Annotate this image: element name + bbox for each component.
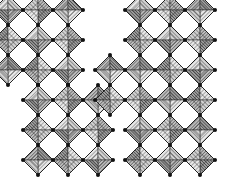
shared-corner-vertex — [51, 98, 55, 102]
octahedral-framework-figure: Corner-sharing octahedral framework Thre… — [0, 0, 227, 184]
shared-corner-vertex — [153, 68, 157, 72]
shared-corner-vertex — [51, 128, 55, 132]
shared-corner-vertex — [36, 23, 40, 27]
shared-corner-vertex — [66, 173, 70, 177]
shared-corner-vertex — [183, 128, 187, 132]
shared-corner-vertex — [93, 68, 97, 72]
shared-corner-vertex — [36, 113, 40, 117]
shared-corner-vertex — [168, 173, 172, 177]
shared-corner-vertex — [21, 8, 25, 12]
shared-corner-vertex — [66, 143, 70, 147]
shared-corner-vertex — [198, 173, 202, 177]
shared-corner-vertex — [213, 8, 217, 12]
shared-corner-vertex — [6, 53, 10, 57]
shared-corner-vertex — [213, 158, 217, 162]
shared-corner-vertex — [111, 128, 115, 132]
shared-corner-vertex — [183, 38, 187, 42]
shared-corner-vertex — [213, 68, 217, 72]
shared-corner-vertex — [168, 53, 172, 57]
shared-corner-vertex — [123, 128, 127, 132]
shared-corner-vertex — [108, 113, 112, 117]
shared-corner-vertex — [66, 113, 70, 117]
shared-corner-vertex — [21, 98, 25, 102]
shared-corner-vertex — [81, 98, 85, 102]
shared-corner-vertex — [123, 98, 127, 102]
shared-corner-vertex — [153, 158, 157, 162]
shared-corner-vertex — [183, 8, 187, 12]
shared-corner-vertex — [51, 68, 55, 72]
shared-corner-vertex — [66, 83, 70, 87]
shared-corner-vertex — [21, 38, 25, 42]
shared-corner-vertex — [138, 53, 142, 57]
shared-corner-vertex — [108, 53, 112, 57]
shared-corner-vertex — [123, 158, 127, 162]
shared-corner-vertex — [96, 113, 100, 117]
shared-corner-vertex — [6, 83, 10, 87]
top-left-cluster — [0, 0, 85, 87]
shared-corner-vertex — [183, 158, 187, 162]
shared-corner-vertex — [213, 98, 217, 102]
shared-corner-vertex — [36, 143, 40, 147]
shared-corner-vertex — [153, 128, 157, 132]
shared-corner-vertex — [198, 113, 202, 117]
structure-canvas — [0, 0, 227, 184]
shared-corner-vertex — [111, 158, 115, 162]
shared-corner-vertex — [93, 98, 97, 102]
shared-corner-vertex — [123, 38, 127, 42]
shared-corner-vertex — [36, 53, 40, 57]
shared-corner-vertex — [168, 143, 172, 147]
shared-corner-vertex — [168, 83, 172, 87]
shared-corner-vertex — [81, 158, 85, 162]
shared-corner-vertex — [198, 23, 202, 27]
shared-corner-vertex — [66, 53, 70, 57]
shared-corner-vertex — [81, 8, 85, 12]
shared-corner-vertex — [138, 173, 142, 177]
shared-corner-vertex — [81, 68, 85, 72]
shared-corner-vertex — [21, 128, 25, 132]
shared-corner-vertex — [183, 98, 187, 102]
shared-corner-vertex — [213, 38, 217, 42]
shared-corner-vertex — [6, 23, 10, 27]
shared-corner-vertex — [36, 83, 40, 87]
shared-corner-vertex — [123, 8, 127, 12]
shared-corner-vertex — [36, 173, 40, 177]
shared-corner-vertex — [96, 173, 100, 177]
shared-corner-vertex — [138, 143, 142, 147]
shared-corner-vertex — [51, 8, 55, 12]
shared-corner-vertex — [51, 38, 55, 42]
shared-corner-vertex — [66, 23, 70, 27]
shared-corner-vertex — [96, 143, 100, 147]
shared-corner-vertex — [153, 98, 157, 102]
shared-corner-vertex — [198, 143, 202, 147]
shared-corner-vertex — [183, 68, 187, 72]
shared-corner-vertex — [123, 68, 127, 72]
shared-corner-vertex — [153, 8, 157, 12]
shared-corner-vertex — [198, 53, 202, 57]
shared-corner-vertex — [168, 23, 172, 27]
shared-corner-vertex — [198, 83, 202, 87]
shared-corner-vertex — [81, 128, 85, 132]
shared-corner-vertex — [96, 83, 100, 87]
shared-corner-vertex — [138, 83, 142, 87]
shared-corner-vertex — [108, 83, 112, 87]
shared-corner-vertex — [51, 158, 55, 162]
shared-corner-vertex — [138, 113, 142, 117]
shared-corner-vertex — [168, 113, 172, 117]
shared-corner-vertex — [153, 38, 157, 42]
shared-corner-vertex — [21, 68, 25, 72]
shared-corner-vertex — [138, 23, 142, 27]
shared-corner-vertex — [213, 128, 217, 132]
shared-corner-vertex — [21, 158, 25, 162]
shared-corner-vertex — [81, 38, 85, 42]
